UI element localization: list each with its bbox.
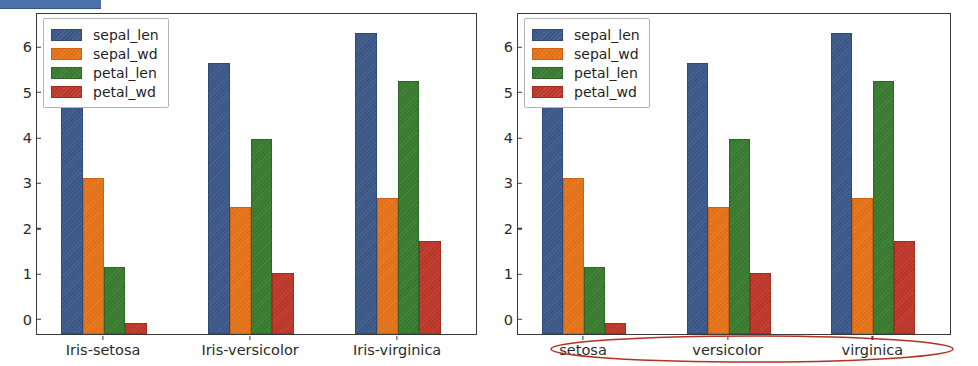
- bar-sepal_wd: [377, 198, 398, 334]
- bar-group: [355, 14, 440, 334]
- bar-petal_wd: [419, 241, 440, 334]
- y-axis-tick: 6: [504, 40, 518, 55]
- legend-entry: petal_wd: [51, 82, 159, 101]
- bar-petal_wd: [894, 241, 915, 334]
- y-axis-tick: 5: [23, 85, 37, 100]
- y-axis-tick-label: 4: [504, 131, 518, 146]
- bar-petal_len: [873, 81, 894, 334]
- legend-swatch-sepal_wd: [532, 48, 563, 60]
- x-axis-left: Iris-setosaIris-versicolorIris-virginica: [36, 336, 477, 362]
- y-axis-tick: 1: [504, 267, 518, 282]
- x-axis-tick-mark: [582, 336, 583, 340]
- bar-petal_wd: [750, 273, 771, 334]
- legend-swatch-petal_wd: [51, 86, 82, 98]
- bar-sepal_len: [542, 105, 563, 334]
- legend-swatch-sepal_wd: [51, 48, 82, 60]
- y-axis-tick-mark: [37, 137, 41, 138]
- x-axis-tick-mark: [250, 336, 251, 340]
- bar-petal_wd: [125, 323, 146, 334]
- y-axis-tick-label: 3: [504, 176, 518, 191]
- y-axis-tick-mark: [37, 228, 41, 229]
- legend-label: sepal_len: [93, 28, 159, 42]
- legend-swatch-petal_len: [51, 67, 82, 79]
- bar-petal_len: [398, 81, 419, 334]
- y-axis-tick: 6: [23, 40, 37, 55]
- y-axis-tick-label: 0: [504, 312, 518, 327]
- y-axis-tick: 4: [504, 131, 518, 146]
- y-axis-tick-label: 3: [23, 176, 37, 191]
- bar-petal_len: [251, 139, 272, 334]
- x-axis-right: setosaversicolorvirginica: [517, 336, 951, 362]
- bar-sepal_wd: [563, 178, 584, 334]
- legend-label: sepal_len: [574, 28, 640, 42]
- y-axis-tick-mark: [37, 274, 41, 275]
- legend-entry: sepal_len: [532, 25, 640, 44]
- y-axis-tick: 5: [504, 85, 518, 100]
- bar-sepal_len: [355, 33, 376, 334]
- bar-group: [831, 14, 915, 334]
- x-axis-tick-mark: [397, 336, 398, 340]
- bar-petal_wd: [605, 323, 626, 334]
- y-axis-tick-label: 5: [504, 85, 518, 100]
- legend-label: petal_len: [574, 66, 638, 80]
- y-axis-tick-mark: [37, 92, 41, 93]
- x-axis-tick-label: virginica: [842, 343, 904, 358]
- y-axis-tick-label: 2: [23, 221, 37, 236]
- y-axis-tick: 3: [23, 176, 37, 191]
- x-axis-tick-label: versicolor: [692, 343, 763, 358]
- legend-entry: petal_len: [51, 63, 159, 82]
- y-axis-tick: 0: [23, 312, 37, 327]
- y-axis-tick-mark: [37, 47, 41, 48]
- x-axis-tick-mark: [872, 336, 873, 340]
- bar-sepal_len: [831, 33, 852, 334]
- legend-label: petal_wd: [574, 85, 637, 99]
- bar-group: [687, 14, 771, 334]
- legend-entry: petal_len: [532, 63, 640, 82]
- y-axis-tick-mark: [37, 319, 41, 320]
- y-axis-tick-label: 0: [23, 312, 37, 327]
- legend-label: sepal_wd: [93, 47, 158, 61]
- x-axis-tick-mark: [103, 336, 104, 340]
- legend-swatch-sepal_len: [532, 29, 563, 41]
- y-axis-tick-mark: [37, 183, 41, 184]
- y-axis-tick-label: 6: [504, 40, 518, 55]
- bar-chart-left: 0123456 Iris-setosaIris-versicolorIris-v…: [0, 0, 489, 366]
- y-axis-tick: 2: [504, 221, 518, 236]
- legend-label: sepal_wd: [574, 47, 639, 61]
- legend-swatch-petal_wd: [532, 86, 563, 98]
- y-axis-tick-label: 1: [23, 267, 37, 282]
- bar-petal_len: [584, 267, 605, 334]
- legend-left: sepal_lensepal_wdpetal_lenpetal_wd: [43, 18, 169, 108]
- legend-right: sepal_lensepal_wdpetal_lenpetal_wd: [524, 18, 650, 108]
- y-axis-tick: 2: [23, 221, 37, 236]
- y-axis-tick: 3: [504, 176, 518, 191]
- legend-entry: sepal_len: [51, 25, 159, 44]
- bar-sepal_len: [61, 105, 82, 334]
- y-axis-tick-mark: [518, 228, 522, 229]
- y-axis-tick: 4: [23, 131, 37, 146]
- legend-label: petal_len: [93, 66, 157, 80]
- x-axis-tick-label: Iris-setosa: [66, 343, 141, 358]
- bar-sepal_wd: [230, 207, 251, 334]
- y-axis-tick: 1: [23, 267, 37, 282]
- x-axis-tick-mark: [727, 336, 728, 340]
- legend-entry: sepal_wd: [51, 44, 159, 63]
- legend-swatch-petal_len: [532, 67, 563, 79]
- bar-group: [208, 14, 293, 334]
- bar-petal_wd: [272, 273, 293, 334]
- bar-petal_len: [729, 139, 750, 334]
- bar-sepal_wd: [708, 207, 729, 334]
- y-axis-tick-label: 4: [23, 131, 37, 146]
- y-axis-tick-label: 6: [23, 40, 37, 55]
- y-axis-tick-mark: [518, 47, 522, 48]
- legend-label: petal_wd: [93, 85, 156, 99]
- y-axis-tick: 0: [504, 312, 518, 327]
- bar-chart-right: 0123456 setosaversicolorvirginica sepal_…: [489, 0, 978, 366]
- y-axis-tick-label: 5: [23, 85, 37, 100]
- bar-sepal_wd: [83, 178, 104, 334]
- legend-swatch-sepal_len: [51, 29, 82, 41]
- bar-sepal_len: [208, 63, 229, 334]
- legend-entry: sepal_wd: [532, 44, 640, 63]
- x-axis-tick-label: Iris-virginica: [353, 343, 441, 358]
- legend-entry: petal_wd: [532, 82, 640, 101]
